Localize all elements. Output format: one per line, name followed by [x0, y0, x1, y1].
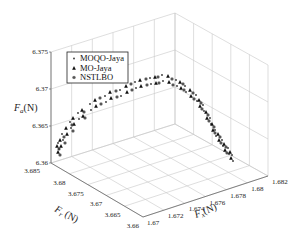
- mo-jaya-point: [109, 96, 113, 100]
- nstlbo-point: [200, 107, 203, 110]
- x-tick-label: 1.682: [272, 178, 288, 186]
- mo-jaya-point: [178, 80, 182, 84]
- moqo-jaya-point: [161, 74, 163, 76]
- nstlbo-point: [98, 96, 101, 99]
- moqo-jaya-point: [162, 80, 164, 82]
- moqo-jaya-point: [57, 142, 59, 144]
- z-tick-label: 6.375: [32, 48, 48, 56]
- moqo-jaya-point: [119, 89, 121, 91]
- mo-jaya-point: [167, 80, 171, 84]
- mo-jaya-point: [55, 144, 59, 148]
- legend-label: NSTLBO: [80, 72, 113, 82]
- legend-label: MOQO-Jaya: [80, 53, 124, 63]
- moqo-jaya-point: [77, 112, 79, 114]
- moqo-jaya-point: [214, 129, 216, 131]
- legend-label: MO-Jaya: [80, 63, 112, 73]
- moqo-jaya-point: [70, 127, 72, 129]
- z-axis-label: Fa(N): [13, 102, 38, 115]
- y-tick-label: 3.665: [105, 211, 121, 219]
- nstlbo-point: [212, 125, 215, 128]
- nstlbo-point: [207, 119, 210, 122]
- nstlbo-point: [58, 153, 61, 156]
- nstlbo-point: [170, 77, 173, 80]
- y-tick-label: 3.675: [68, 190, 84, 198]
- mo-jaya-point: [198, 104, 202, 108]
- tick-labels: 6.366.3656.376.3753.6853.683.6753.673.66…: [24, 48, 288, 230]
- data-points: [55, 74, 234, 162]
- nstlbo-point: [62, 135, 65, 138]
- mo-jaya-point: [139, 84, 143, 88]
- nstlbo-point: [130, 88, 133, 91]
- mo-jaya-point: [64, 126, 68, 130]
- moqo-jaya-point: [209, 117, 211, 119]
- moqo-jaya-point: [78, 118, 80, 120]
- mo-jaya-point: [154, 81, 158, 85]
- nstlbo-point: [145, 83, 148, 86]
- moqo-jaya-point: [149, 77, 151, 79]
- mo-jaya-point: [166, 74, 170, 78]
- moqo-jaya-point: [134, 81, 136, 83]
- nstlbo-point: [181, 82, 184, 85]
- moqo-jaya-point: [69, 121, 71, 123]
- nstlbo-point: [99, 102, 102, 105]
- moqo-jaya-point: [202, 104, 204, 106]
- moqo-jaya-point: [104, 95, 106, 97]
- moqo-jaya-point: [175, 79, 177, 81]
- moqo-jaya-point: [231, 154, 233, 156]
- moqo-jaya-point: [90, 109, 92, 111]
- nstlbo-point: [192, 97, 195, 100]
- nstlbo-point: [129, 82, 132, 85]
- pareto-front-3d-chart: 6.366.3656.376.3753.6853.683.6753.673.66…: [0, 0, 299, 234]
- moqo-jaya-point: [176, 85, 178, 87]
- moqo-jaya-point: [184, 85, 186, 87]
- mo-jaya-point: [56, 150, 60, 154]
- moqo-jaya-point: [62, 139, 64, 141]
- moqo-jaya-point: [120, 95, 122, 97]
- nstlbo-point: [218, 135, 221, 138]
- mo-jaya-point: [94, 104, 98, 108]
- nstlbo-point: [156, 75, 159, 78]
- moqo-jaya-point: [195, 94, 197, 96]
- mo-jaya-point: [188, 88, 192, 92]
- mo-jaya-point: [228, 150, 232, 154]
- moqo-jaya-point: [135, 87, 137, 89]
- mo-jaya-point: [65, 132, 69, 136]
- y-axis-label: Fr (N): [51, 203, 80, 227]
- z-tick-label: 6.36: [36, 159, 49, 167]
- mo-jaya-point: [223, 148, 227, 152]
- y-tick-label: 3.685: [24, 167, 40, 175]
- nstlbo-point: [144, 77, 147, 80]
- moqo-jaya-point: [150, 83, 152, 85]
- moqo-jaya-point: [89, 103, 91, 105]
- mo-jaya-point: [138, 78, 142, 82]
- mo-jaya-point: [108, 90, 112, 94]
- mo-jaya-point: [217, 138, 221, 142]
- nstlbo-point: [219, 141, 222, 144]
- moqo-jaya-point: [185, 91, 187, 93]
- x-axis-label: Fx(N): [192, 201, 219, 222]
- y-tick-label: 3.67: [90, 200, 103, 208]
- nstlbo-point: [191, 91, 194, 94]
- moqo-jaya-point: [221, 139, 223, 141]
- nstlbo-point: [157, 81, 160, 84]
- nstlbo-point: [57, 147, 60, 150]
- nstlbo-point: [213, 131, 216, 134]
- mo-jaya-point: [125, 90, 129, 94]
- mo-jaya-point: [58, 138, 62, 142]
- nstlbo-point: [115, 95, 118, 98]
- moqo-jaya-point: [61, 133, 63, 135]
- nstlbo-point: [206, 113, 209, 116]
- mo-jaya-point: [205, 116, 209, 120]
- z-tick-label: 6.37: [36, 85, 49, 93]
- moqo-jaya-point: [105, 101, 107, 103]
- x-tick-label: 1.678: [230, 192, 246, 200]
- mo-jaya-point: [189, 94, 193, 98]
- mo-jaya-point: [179, 86, 183, 90]
- moqo-jaya-point: [232, 160, 234, 162]
- nstlbo-point: [114, 89, 117, 92]
- y-tick-label: 3.66: [127, 222, 140, 230]
- z-tick-label: 6.365: [32, 122, 48, 130]
- moqo-jaya-point: [203, 110, 205, 112]
- mo-jaya-point: [216, 132, 220, 136]
- grid-lines: [51, 13, 268, 217]
